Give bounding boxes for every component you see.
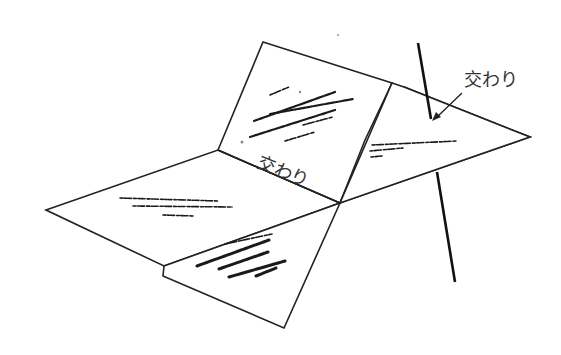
line-plane-intersection-label: 交わり (464, 69, 518, 90)
stray-mark (337, 34, 339, 36)
intersection-diagram: 交わり 交わり (0, 0, 561, 355)
piercing-line-lower (437, 172, 455, 282)
